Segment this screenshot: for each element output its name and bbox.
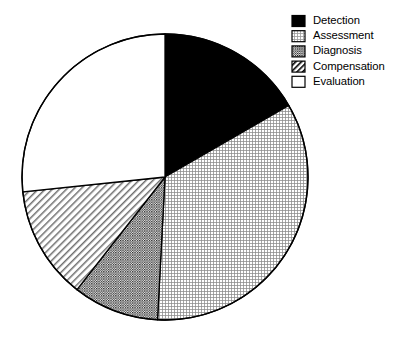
- legend-item-assessment: Assessment: [291, 28, 409, 43]
- legend-label-diagnosis: Diagnosis: [313, 45, 362, 56]
- legend-label-detection: Detection: [313, 15, 360, 26]
- pie-slice-evaluation[interactable]: [22, 34, 165, 192]
- legend-item-detection: Detection: [291, 13, 409, 28]
- chart-legend: Detection Assessment Diagnosis Compensat…: [291, 13, 409, 89]
- pie-slices-group: [22, 34, 308, 320]
- legend-label-compensation: Compensation: [313, 61, 385, 72]
- legend-label-evaluation: Evaluation: [313, 76, 365, 87]
- pie-chart-figure: Detection Assessment Diagnosis Compensat…: [0, 0, 409, 338]
- legend-item-evaluation: Evaluation: [291, 74, 409, 89]
- legend-item-diagnosis: Diagnosis: [291, 43, 409, 58]
- legend-item-compensation: Compensation: [291, 59, 409, 74]
- legend-label-assessment: Assessment: [313, 30, 374, 41]
